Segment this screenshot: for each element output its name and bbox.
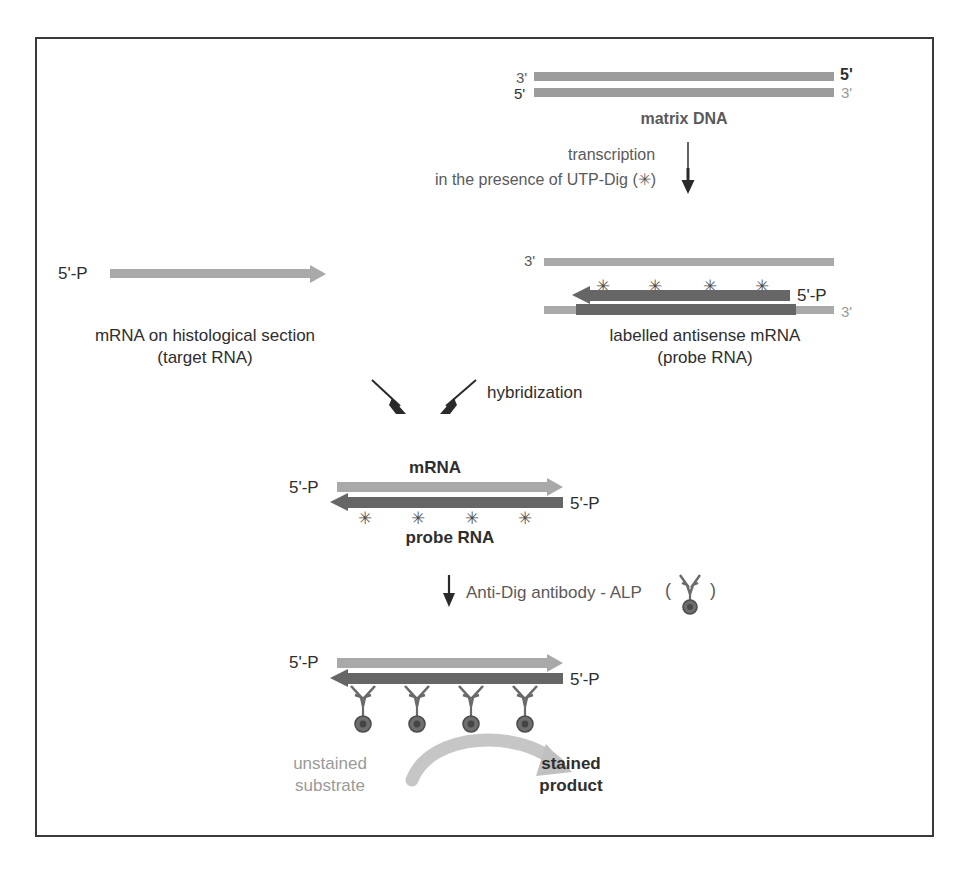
unstained-substrate-label-line2: substrate [240, 776, 420, 796]
detection-mrna-strand [337, 658, 547, 668]
bound-antibody-icon-1 [346, 682, 382, 734]
detection-group: 5'-P 5'-P [0, 0, 967, 878]
stained-product-label-line2: product [496, 776, 646, 796]
detection-mrna-arrowhead [547, 654, 563, 672]
detection-right-five-prime-label: 5'-P [570, 670, 600, 690]
figure-canvas: 3' 5' 5' 3' matrix DNA transcription in … [0, 0, 967, 878]
unstained-substrate-label-line1: unstained [240, 754, 420, 774]
detection-left-five-prime-label: 5'-P [289, 653, 319, 673]
stained-product-label-line1: stained [496, 754, 646, 774]
